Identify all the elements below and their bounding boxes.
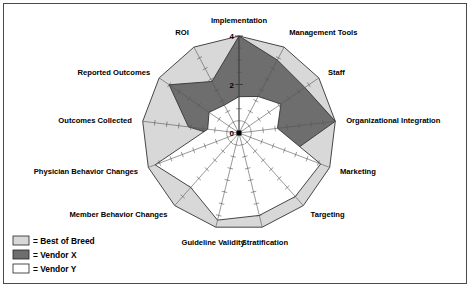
chart-legend: = Best of Breed = Vendor X = Vendor Y [13,236,95,274]
radar-chart-stage: 024 ImplementationManagement ToolsStaffO… [0,0,472,288]
legend-label-best-of-breed: = Best of Breed [33,236,95,246]
axis-label-organizational-integration: Organizational Integration [346,116,440,125]
legend-swatch-vendor-y [13,264,29,273]
legend-swatch-best-of-breed [13,236,29,245]
radial-tick-label-4: 4 [230,32,235,41]
axis-label-reported-outcomes: Reported Outcomes [78,68,151,77]
legend-item-best-of-breed: = Best of Breed [13,236,95,246]
radial-tick-label-0: 0 [230,129,235,138]
legend-label-vendor-x: = Vendor X [33,250,77,260]
radial-tick-label-2: 2 [230,81,235,90]
legend-swatch-vendor-x [13,250,29,259]
axis-label-management-tools: Management Tools [289,28,357,37]
radar-chart: 024 ImplementationManagement ToolsStaffO… [0,0,472,288]
axis-label-implementation: Implementation [211,16,267,25]
legend-item-vendor-y: = Vendor Y [13,264,77,274]
axis-label-staff: Staff [328,68,345,77]
legend-label-vendor-y: = Vendor Y [33,264,77,274]
legend-item-vendor-x: = Vendor X [13,250,77,260]
axis-label-marketing: Marketing [340,167,376,176]
axis-label-outcomes-collected: Outcomes Collected [58,116,132,125]
axis-label-roi: ROI [175,28,189,37]
axis-label-member-behavior-changes: Member Behavior Changes [69,210,167,219]
axis-label-targeting: Targeting [311,210,345,219]
axis-label-physician-behavior-changes: Physician Behavior Changes [34,167,138,176]
axis-label-stratification: Stratification [242,238,289,247]
center-point [237,131,242,136]
axis-label-guideline-validity: Guideline Validity [181,238,245,247]
